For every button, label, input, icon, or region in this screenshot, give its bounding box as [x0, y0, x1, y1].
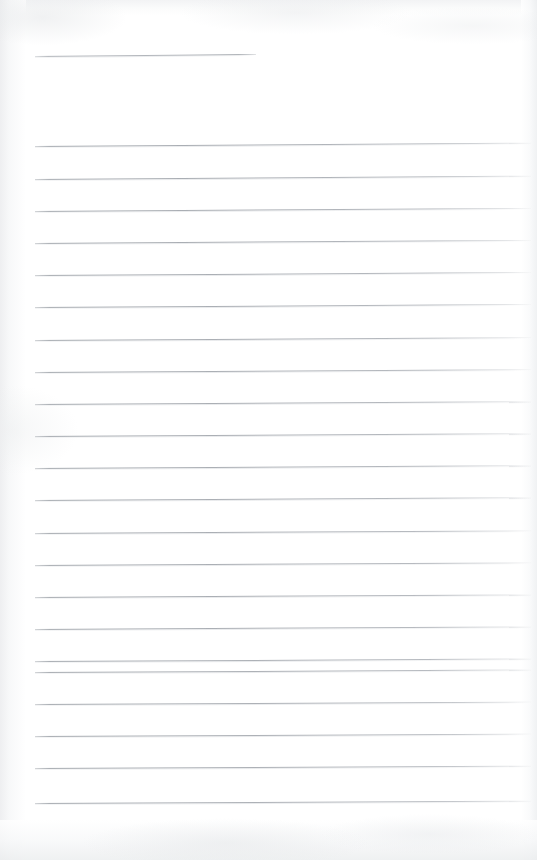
ruled-line: [35, 465, 531, 469]
ruled-line: [35, 240, 531, 244]
ruled-line: [35, 669, 531, 673]
scan-edge-shadow-top: [0, 0, 537, 16]
ruled-line: [35, 401, 531, 405]
ruled-line: [35, 766, 531, 769]
ruled-line: [35, 801, 531, 804]
scan-edge-shadow-left: [0, 0, 26, 860]
scanned-notebook-page: [0, 0, 537, 860]
ruled-line: [35, 530, 531, 534]
ruled-line: [35, 594, 531, 598]
ruled-line: [35, 433, 531, 437]
scan-edge-shadow-right: [521, 0, 537, 860]
ruled-line: [35, 626, 531, 630]
ruled-line: [35, 497, 531, 501]
ruled-line: [35, 143, 531, 147]
ruled-line: [35, 176, 531, 180]
paper-texture: [0, 0, 537, 860]
ruled-line: [35, 562, 531, 566]
header-rule: [35, 54, 256, 57]
ruled-line: [35, 658, 531, 662]
ruled-line: [35, 369, 531, 373]
ruled-line: [35, 272, 531, 276]
ruled-line: [35, 734, 531, 737]
scan-edge-shadow-bottom: [0, 820, 537, 860]
ruled-line: [35, 304, 531, 308]
ruled-line: [35, 337, 531, 341]
ruled-line: [35, 702, 531, 705]
ruled-line: [35, 208, 531, 212]
